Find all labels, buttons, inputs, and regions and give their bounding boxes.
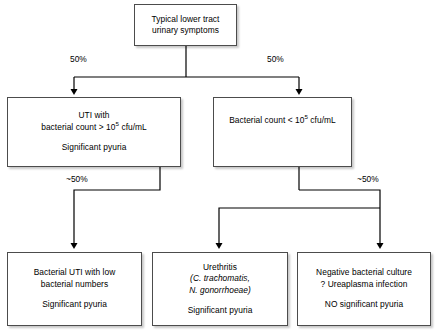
node-high-line-2: bacterial count > 105 cfu/mL [41,122,147,134]
edge-label-high-count-to-bacterial-uti-low: ~50% [66,174,88,184]
edge-label-root-to-high-count: 50% [70,54,87,64]
node-negative-line-1: Negative bacterial culture [316,267,412,279]
node-high-count-suffix: cfu/mL [119,122,147,132]
node-bacterial-uti-line-2: bacterial numbers [41,279,108,291]
edge-low-count-to-negative-culture [299,190,380,246]
flowchart-diagram: Typical lower tract urinary symptoms UTI… [0,0,438,330]
node-urethritis-line-3: N. gonorrhoeae) [189,285,251,297]
node-negative-line-3: NO significant pyuria [325,299,403,311]
node-high-line-1: UTI with [78,110,109,122]
node-negative-line-2: ? Ureaplasma infection [321,279,408,291]
edge-low-count-to-urethritis [219,208,380,246]
node-bacterial-uti-line-1: Bacterial UTI with low [34,267,116,279]
node-negative-bacterial-culture: Negative bacterial culture ? Ureaplasma … [297,252,431,326]
node-bacterial-uti-line-3: Significant pyuria [42,299,107,311]
node-root-line-2: urinary symptoms [152,25,219,37]
node-urethritis-line-1: Urethritis [203,262,237,274]
node-bacterial-count-low: Bacterial count < 105 cfu/mL [213,97,352,167]
node-high-count-prefix: bacterial count > 10 [41,122,115,132]
node-urethritis: Urethritis (C. trachomatis, N. gonorrhoe… [152,252,288,326]
node-low-line-1: Bacterial count < 105 cfu/mL [229,115,336,127]
edge-label-root-to-low-count: 50% [267,54,284,64]
node-urethritis-line-2: (C. trachomatis, [190,273,250,285]
node-low-count-prefix: Bacterial count < 10 [229,115,304,125]
node-low-body: Bacterial count < 105 cfu/mL [229,115,336,149]
node-root-line-1: Typical lower tract [152,14,220,26]
node-high-line-3: Significant pyuria [62,142,127,154]
node-low-count-suffix: cfu/mL [308,115,336,125]
node-typical-lower-tract-urinary-symptoms: Typical lower tract urinary symptoms [134,4,237,46]
node-uti-with-high-bacterial-count: UTI with bacterial count > 105 cfu/mL Si… [7,97,181,167]
node-bacterial-uti-with-low-bacterial-numbers: Bacterial UTI with low bacterial numbers… [7,252,142,326]
edge-label-low-count-to-negative-culture: ~50% [357,174,379,184]
node-urethritis-line-4: Significant pyuria [188,305,253,317]
